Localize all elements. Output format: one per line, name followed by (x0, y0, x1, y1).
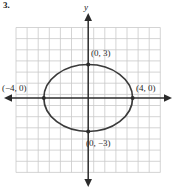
point-label-top: (0, 3) (91, 49, 111, 58)
y-axis-arrow-up (84, 13, 92, 21)
vertex-point-left (42, 96, 46, 100)
point-label-right: (4, 0) (136, 84, 156, 93)
point-label-bottom: (0, −3) (86, 139, 111, 148)
coordinate-plane-graph (0, 0, 173, 189)
y-axis-label: y (84, 3, 88, 12)
vertex-point-right (131, 96, 135, 100)
problem-number: 3. (3, 1, 10, 10)
x-axis-arrow-left (4, 94, 12, 102)
point-label-left: (−4, 0) (2, 84, 27, 93)
vertex-point-bottom (86, 130, 90, 134)
figure-container: 3. (0, 0, 173, 189)
y-axis (84, 13, 92, 187)
vertex-point-top (86, 63, 90, 67)
x-axis-arrow-right (164, 94, 172, 102)
y-axis-arrow-down (84, 179, 92, 187)
